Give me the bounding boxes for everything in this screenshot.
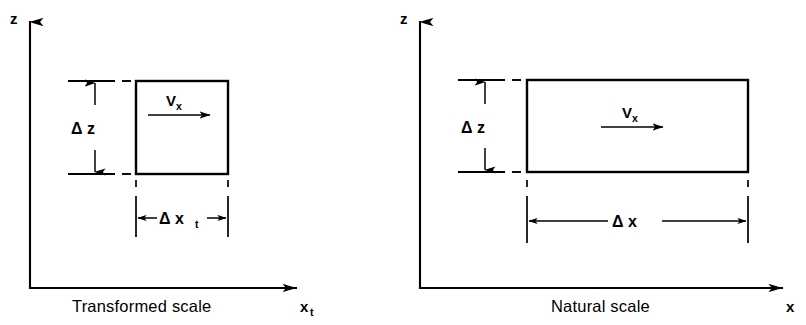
velocity-label-subscript-transformed: x xyxy=(176,100,182,112)
z-axis-label-transformed: z xyxy=(10,10,18,27)
x-axis-label-natural: x xyxy=(786,298,795,315)
velocity-label-subscript-natural: x xyxy=(632,112,638,124)
caption-transformed-scale: Transformed scale xyxy=(72,297,211,315)
caption-natural-scale: Natural scale xyxy=(551,297,650,315)
panel-transformed-scale: z x t Δ z V x xyxy=(10,10,314,318)
control-volume-box-natural xyxy=(527,80,748,172)
delta-x-label-natural: Δ x xyxy=(612,213,637,230)
velocity-label-natural: V xyxy=(622,104,632,121)
figure-root: z x t Δ z V x xyxy=(0,0,806,325)
control-volume-box-transformed xyxy=(136,81,228,174)
panel-natural-scale: z x Δ z V x xyxy=(400,10,795,315)
z-axis-label-natural: z xyxy=(400,10,408,27)
delta-z-label-natural: Δ z xyxy=(461,119,485,136)
delta-xt-label-subscript-transformed: t xyxy=(195,218,199,230)
velocity-label-transformed: V xyxy=(166,92,176,109)
delta-z-label-transformed: Δ z xyxy=(71,120,95,137)
scale-comparison-diagram: z x t Δ z V x xyxy=(0,0,806,325)
xt-axis-label-transformed: x xyxy=(300,298,309,315)
xt-axis-label-subscript-transformed: t xyxy=(310,306,314,318)
delta-xt-label-transformed: Δ x xyxy=(159,210,184,227)
